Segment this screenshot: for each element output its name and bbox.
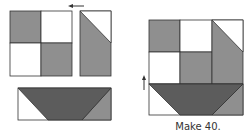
caption: Make 40. (160, 121, 236, 132)
assembled-unit (149, 20, 243, 115)
quilt-diagram (0, 0, 250, 137)
triangle-unit (80, 11, 111, 76)
four-patch-unit (10, 11, 72, 76)
trapezoid-strip (18, 88, 111, 120)
left-arrow-icon (68, 4, 84, 8)
up-arrow-icon (142, 75, 146, 90)
